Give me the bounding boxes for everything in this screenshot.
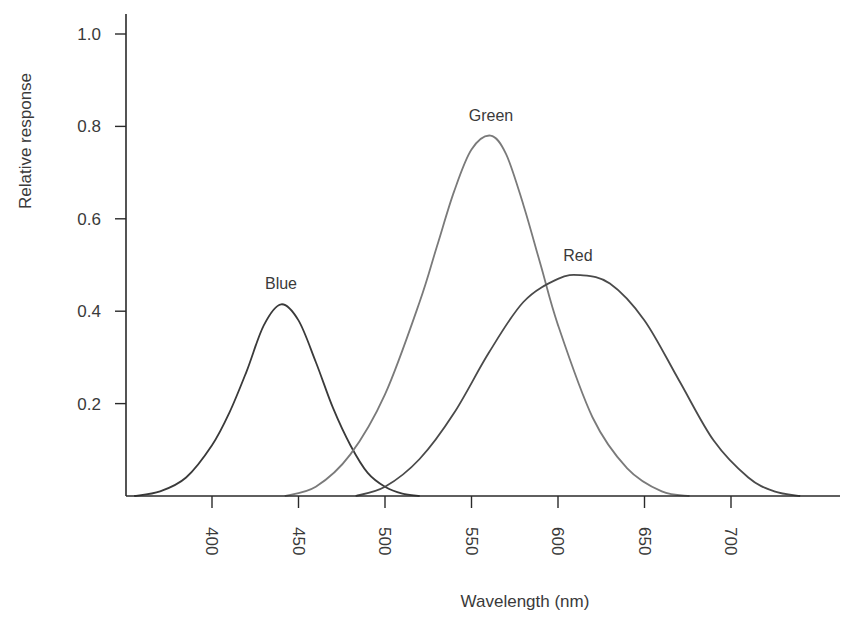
x-tick-label: 600 [548,527,567,555]
x-axis-ticks: 400450500550600650700 [202,496,740,555]
y-tick-label: 1.0 [77,25,101,44]
x-tick-label: 650 [635,527,654,555]
x-tick-label: 400 [202,527,221,555]
blue-curve-label: Blue [265,275,297,292]
y-tick-label: 0.8 [77,117,101,136]
y-tick-label: 0.2 [77,395,101,414]
y-axis-ticks: 0.20.40.60.81.0 [77,25,126,414]
x-axis-title: Wavelength (nm) [461,592,590,611]
red-curve-label: Red [563,247,592,264]
green-response-curve [285,136,690,496]
y-axis-title: Relative response [16,73,35,209]
x-tick-label: 700 [721,527,740,555]
x-tick-label: 500 [375,527,394,555]
red-response-curve [356,275,801,496]
x-tick-label: 550 [462,527,481,555]
blue-response-curve [134,304,419,496]
green-curve-label: Green [469,107,513,124]
y-tick-label: 0.6 [77,210,101,229]
curve-labels: BlueGreenRed [265,107,593,292]
plot-curves [134,136,800,496]
y-tick-label: 0.4 [77,302,101,321]
x-tick-label: 450 [289,527,308,555]
spectral-response-chart: 0.20.40.60.81.0 400450500550600650700 Re… [0,0,843,624]
